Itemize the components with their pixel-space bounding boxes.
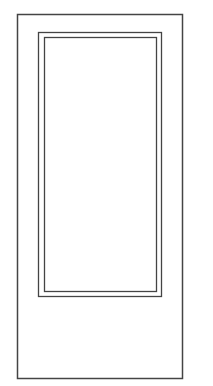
door-frame xyxy=(18,15,183,379)
panel-inner-molding xyxy=(45,38,157,292)
door-drawing xyxy=(0,0,213,386)
panel-outer-molding xyxy=(39,33,162,297)
